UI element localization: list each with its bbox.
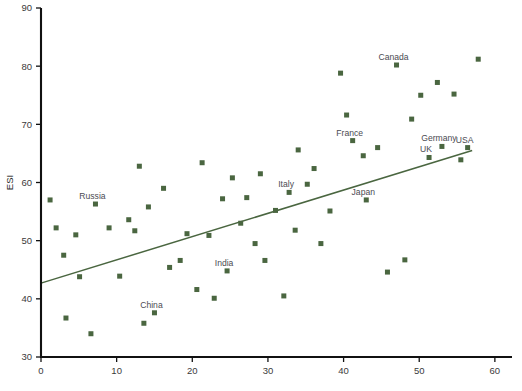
- y-tick-label: 70: [21, 119, 32, 130]
- y-tick-label: 50: [21, 235, 32, 246]
- point-label-germany: Germany: [421, 133, 457, 143]
- data-point[interactable]: [220, 196, 225, 201]
- data-point[interactable]: [206, 233, 211, 238]
- data-point[interactable]: [152, 310, 157, 315]
- data-point[interactable]: [61, 253, 66, 258]
- data-point[interactable]: [427, 155, 432, 160]
- data-point[interactable]: [88, 331, 93, 336]
- x-tick-label: 0: [38, 365, 43, 376]
- data-point[interactable]: [194, 287, 199, 292]
- data-points-layer: [48, 57, 481, 337]
- x-tick-label: 60: [490, 365, 501, 376]
- axes-layer: 304050607080900102030405060ESI: [4, 2, 512, 376]
- data-point[interactable]: [200, 160, 205, 165]
- data-point[interactable]: [273, 208, 278, 213]
- data-point[interactable]: [184, 231, 189, 236]
- data-point[interactable]: [244, 195, 249, 200]
- y-tick-label: 80: [21, 61, 32, 72]
- data-point[interactable]: [63, 316, 68, 321]
- data-point[interactable]: [385, 270, 390, 275]
- data-point[interactable]: [361, 153, 366, 158]
- data-point[interactable]: [435, 80, 440, 85]
- y-tick-label: 90: [21, 2, 32, 13]
- data-point[interactable]: [418, 93, 423, 98]
- data-point[interactable]: [318, 241, 323, 246]
- data-point[interactable]: [375, 145, 380, 150]
- point-label-usa: USA: [456, 135, 474, 145]
- data-point[interactable]: [167, 265, 172, 270]
- data-point[interactable]: [141, 321, 146, 326]
- trendline-layer: [41, 151, 472, 284]
- data-point[interactable]: [312, 166, 317, 171]
- data-point[interactable]: [238, 221, 243, 226]
- point-label-china: China: [140, 300, 163, 310]
- x-tick-label: 20: [187, 365, 198, 376]
- data-point[interactable]: [146, 204, 151, 209]
- data-point[interactable]: [126, 217, 131, 222]
- data-point[interactable]: [132, 228, 137, 233]
- data-point[interactable]: [137, 164, 142, 169]
- x-tick-label: 40: [338, 365, 349, 376]
- data-point[interactable]: [476, 57, 481, 62]
- y-tick-label: 60: [21, 177, 32, 188]
- data-point[interactable]: [161, 186, 166, 191]
- scatter-plot-figure: RussiaChinaIndiaItalyFranceJapanCanadaUK…: [0, 0, 522, 391]
- data-point[interactable]: [327, 209, 332, 214]
- data-point[interactable]: [296, 147, 301, 152]
- point-label-italy: Italy: [278, 179, 294, 189]
- data-point[interactable]: [338, 71, 343, 76]
- data-point[interactable]: [93, 202, 98, 207]
- y-axis-title: ESI: [4, 175, 15, 190]
- data-point[interactable]: [258, 171, 263, 176]
- x-tick-label: 10: [111, 365, 122, 376]
- data-point[interactable]: [364, 197, 369, 202]
- data-point[interactable]: [178, 258, 183, 263]
- point-label-russia: Russia: [79, 191, 105, 201]
- point-label-france: France: [336, 128, 363, 138]
- data-point[interactable]: [225, 268, 230, 273]
- data-point[interactable]: [344, 113, 349, 118]
- data-point[interactable]: [394, 63, 399, 68]
- data-point[interactable]: [262, 258, 267, 263]
- data-point[interactable]: [77, 274, 82, 279]
- y-tick-label: 30: [21, 351, 32, 362]
- data-point[interactable]: [409, 117, 414, 122]
- point-labels-layer: RussiaChinaIndiaItalyFranceJapanCanadaUK…: [79, 52, 473, 310]
- y-tick-label: 40: [21, 293, 32, 304]
- point-label-uk: UK: [420, 144, 432, 154]
- data-point[interactable]: [439, 144, 444, 149]
- data-point[interactable]: [350, 138, 355, 143]
- x-tick-label: 50: [414, 365, 425, 376]
- data-point[interactable]: [230, 175, 235, 180]
- point-label-india: India: [215, 258, 234, 268]
- point-label-canada: Canada: [378, 52, 408, 62]
- chart-canvas: RussiaChinaIndiaItalyFranceJapanCanadaUK…: [0, 0, 522, 391]
- x-tick-label: 30: [263, 365, 274, 376]
- data-point[interactable]: [253, 241, 258, 246]
- data-point[interactable]: [402, 257, 407, 262]
- data-point[interactable]: [48, 197, 53, 202]
- data-point[interactable]: [212, 296, 217, 301]
- data-point[interactable]: [305, 182, 310, 187]
- point-label-japan: Japan: [352, 187, 376, 197]
- data-point[interactable]: [281, 293, 286, 298]
- data-point[interactable]: [458, 157, 463, 162]
- data-point[interactable]: [54, 225, 59, 230]
- data-point[interactable]: [117, 274, 122, 279]
- data-point[interactable]: [107, 225, 112, 230]
- data-point[interactable]: [465, 145, 470, 150]
- data-point[interactable]: [287, 190, 292, 195]
- data-point[interactable]: [293, 228, 298, 233]
- data-point[interactable]: [452, 92, 457, 97]
- data-point[interactable]: [73, 232, 78, 237]
